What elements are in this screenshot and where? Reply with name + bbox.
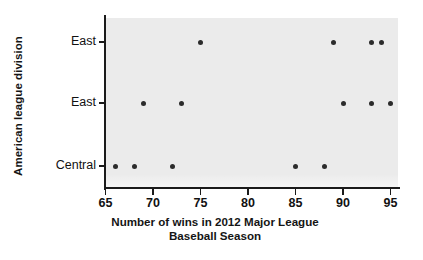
x-tick-label-95: 95 bbox=[371, 196, 411, 210]
data-point bbox=[179, 101, 184, 106]
data-point bbox=[322, 164, 327, 169]
x-axis-title: Number of wins in 2012 Major League Base… bbox=[30, 215, 400, 243]
x-tick-70 bbox=[152, 189, 154, 195]
data-point bbox=[198, 40, 203, 45]
x-tick-65 bbox=[105, 189, 107, 195]
x-tick-95 bbox=[390, 189, 392, 195]
y-tick-label-1: East bbox=[6, 95, 96, 109]
x-tick-90 bbox=[342, 189, 344, 195]
x-tick-label-85: 85 bbox=[276, 196, 316, 210]
x-tick-75 bbox=[200, 189, 202, 195]
x-axis-title-line2: Baseball Season bbox=[169, 229, 261, 242]
y-tick-2 bbox=[99, 41, 105, 43]
data-point bbox=[113, 164, 118, 169]
data-point bbox=[388, 101, 393, 106]
x-tick-label-75: 75 bbox=[181, 196, 221, 210]
panel-sheen bbox=[106, 174, 398, 188]
data-point bbox=[379, 40, 384, 45]
data-point bbox=[341, 101, 346, 106]
data-point bbox=[331, 40, 336, 45]
y-tick-label-wrap-2: East bbox=[0, 34, 96, 50]
plot-panel bbox=[106, 18, 398, 188]
x-tick-label-70: 70 bbox=[133, 196, 173, 210]
data-point bbox=[170, 164, 175, 169]
x-axis-title-line1: Number of wins in 2012 Major League bbox=[111, 215, 318, 228]
y-tick-label-wrap-0: Central bbox=[0, 158, 96, 174]
x-tick-85 bbox=[295, 189, 297, 195]
y-tick-label-wrap-1: East bbox=[0, 95, 96, 111]
y-tick-label-0: Central bbox=[6, 158, 96, 172]
data-point bbox=[293, 164, 298, 169]
y-tick-0 bbox=[99, 165, 105, 167]
x-tick-label-65: 65 bbox=[86, 196, 126, 210]
data-point bbox=[132, 164, 137, 169]
x-tick-label-90: 90 bbox=[323, 196, 363, 210]
scatter-plot-figure: American league division 65707580859095 … bbox=[0, 0, 423, 260]
data-point bbox=[369, 101, 374, 106]
data-point bbox=[369, 40, 374, 45]
y-tick-label-2: East bbox=[6, 34, 96, 48]
x-tick-80 bbox=[247, 189, 249, 195]
x-axis-line bbox=[104, 187, 400, 189]
x-tick-label-80: 80 bbox=[228, 196, 268, 210]
y-tick-1 bbox=[99, 102, 105, 104]
data-point bbox=[141, 101, 146, 106]
